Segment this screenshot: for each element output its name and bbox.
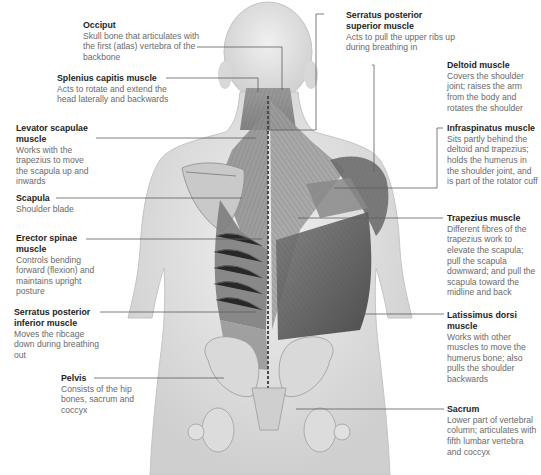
label-title: Serratus posterior inferior muscle xyxy=(14,307,100,329)
label-levator-scapulae: Levator scapulae muscle Works with the t… xyxy=(16,123,96,187)
label-trapezius: Trapezius muscle Different fibres of the… xyxy=(447,213,539,298)
label-pelvis: Pelvis Consists of the hip bones, sacrum… xyxy=(61,373,146,416)
label-desc: Skull bone that articulates with the fir… xyxy=(83,31,208,63)
label-desc: Acts to rotate and extend the head later… xyxy=(57,84,187,105)
label-title: Pelvis xyxy=(61,373,146,384)
label-desc: Moves the ribcage down during breathing … xyxy=(14,329,100,361)
label-title: Latissimus dorsi muscle xyxy=(447,310,539,332)
label-title: Deltoid muscle xyxy=(447,60,537,71)
label-desc: Works with other muscles to move the hum… xyxy=(447,332,539,385)
label-desc: Works with the trapezius to move the sca… xyxy=(16,145,96,187)
label-serratus-posterior-superior: Serratus posterior superior muscle Acts … xyxy=(346,10,456,53)
label-title: Infraspinatus muscle xyxy=(447,123,539,134)
label-sacrum: Sacrum Lower part of vertebral column; a… xyxy=(447,404,539,457)
label-occiput: Occiput Skull bone that articulates with… xyxy=(83,20,208,63)
label-desc: Acts to pull the upper ribs up during br… xyxy=(346,32,456,53)
label-scapula: Scapula Shoulder blade xyxy=(16,193,96,214)
label-desc: Consists of the hip bones, sacrum and co… xyxy=(61,384,146,416)
label-title: Scapula xyxy=(16,193,96,204)
label-desc: Different fibres of the trapezius work t… xyxy=(447,224,539,298)
label-title: Erector spinae muscle xyxy=(16,233,106,255)
label-erector-spinae: Erector spinae muscle Controls bending f… xyxy=(16,233,106,297)
label-desc: Shoulder blade xyxy=(16,204,96,215)
label-title: Occiput xyxy=(83,20,208,31)
label-infraspinatus: Infraspinatus muscle Sits partly behind … xyxy=(447,123,539,187)
label-title: Sacrum xyxy=(447,404,539,415)
label-desc: Lower part of vertebral column; articula… xyxy=(447,415,539,457)
label-desc: Controls bending forward (flexion) and m… xyxy=(16,255,106,297)
label-title: Levator scapulae muscle xyxy=(16,123,96,145)
label-desc: Sits partly behind the deltoid and trape… xyxy=(447,134,539,187)
label-splenius-capitis: Splenius capitis muscle Acts to rotate a… xyxy=(57,73,187,105)
label-desc: Covers the shoulder joint; raises the ar… xyxy=(447,71,537,113)
label-title: Trapezius muscle xyxy=(447,213,539,224)
label-title: Splenius capitis muscle xyxy=(57,73,187,84)
label-deltoid: Deltoid muscle Covers the shoulder joint… xyxy=(447,60,537,113)
label-title: Serratus posterior superior muscle xyxy=(346,10,456,32)
label-latissimus-dorsi: Latissimus dorsi muscle Works with other… xyxy=(447,310,539,385)
label-serratus-posterior-inferior: Serratus posterior inferior muscle Moves… xyxy=(14,307,100,360)
